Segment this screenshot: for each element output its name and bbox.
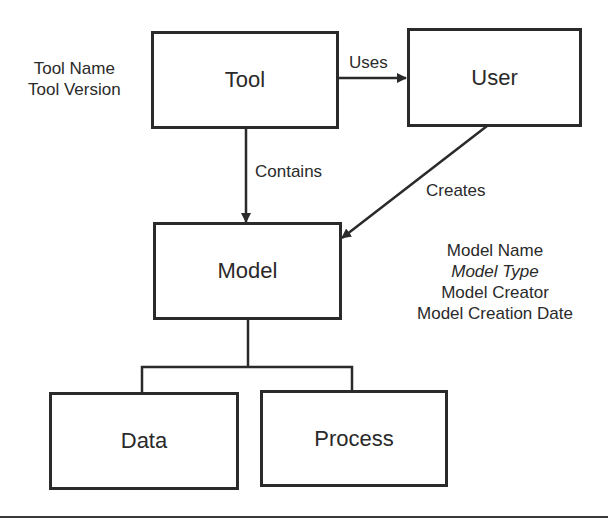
tree-connector-branch <box>142 367 352 392</box>
model-attribute: Model Type <box>382 261 608 282</box>
uses-label: Uses <box>349 52 388 73</box>
user-node-label: User <box>471 65 517 91</box>
process-node: Process <box>260 390 448 487</box>
model-attributes: Model Name Model Type Model Creator Mode… <box>382 240 608 324</box>
model-node: Model <box>153 222 342 320</box>
model-attribute: Model Creation Date <box>382 303 608 324</box>
model-attribute: Model Name <box>382 240 608 261</box>
process-node-label: Process <box>314 426 393 452</box>
data-node-label: Data <box>121 428 167 454</box>
tool-node-label: Tool <box>225 67 265 93</box>
model-node-label: Model <box>218 258 278 284</box>
tool-attribute: Tool Version <box>28 79 121 100</box>
data-node: Data <box>49 392 239 490</box>
tool-attribute: Tool Name <box>28 58 121 79</box>
tool-attributes: Tool Name Tool Version <box>28 58 121 100</box>
model-attribute: Model Creator <box>382 282 608 303</box>
contains-label: Contains <box>255 161 322 182</box>
creates-label: Creates <box>426 180 486 201</box>
tool-node: Tool <box>151 31 339 129</box>
user-node: User <box>407 28 582 127</box>
bottom-divider <box>0 516 608 518</box>
